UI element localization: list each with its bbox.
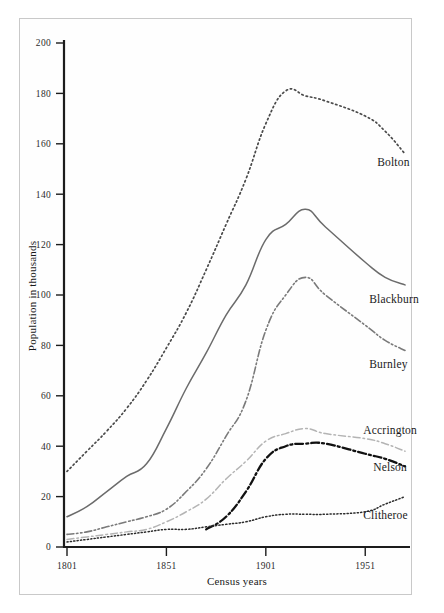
y-axis-tick-label: 200 [36, 38, 51, 48]
y-axis-tick-label: 20 [41, 492, 51, 502]
y-axis-tick-label: 60 [41, 391, 51, 401]
y-axis-tick-label: 160 [36, 139, 51, 149]
x-axis-ticks [67, 547, 365, 556]
x-axis-title: Census years [207, 575, 267, 587]
series-line-burnley[interactable] [67, 277, 405, 534]
y-axis-tick-label: 180 [36, 89, 51, 99]
x-axis: 1801185119011951 [57, 547, 410, 571]
series-label-clitheroe: Clitheroe [363, 509, 408, 521]
x-axis-tick-label: 1901 [256, 561, 276, 571]
series-line-blackburn[interactable] [67, 209, 405, 516]
series-lines [67, 89, 405, 542]
population-line-chart: 020406080100120140160180200 180118511901… [0, 0, 444, 613]
series-label-accrington: Accrington [363, 424, 417, 437]
figure-canvas: 020406080100120140160180200 180118511901… [0, 0, 444, 613]
y-axis-title: Population in thousands [26, 241, 38, 351]
y-axis-tick-label: 140 [36, 190, 51, 200]
series-line-clitheroe[interactable] [67, 497, 405, 542]
y-axis-tick-labels: 020406080100120140160180200 [36, 38, 51, 552]
series-label-burnley: Burnley [369, 358, 407, 371]
series-label-bolton: Bolton [377, 156, 410, 168]
x-axis-tick-labels: 1801185119011951 [57, 561, 375, 571]
y-axis-tick-label: 120 [36, 240, 51, 250]
x-axis-tick-label: 1951 [355, 561, 375, 571]
y-axis-tick-label: 0 [46, 542, 51, 552]
y-axis-ticks [56, 43, 64, 547]
y-axis-tick-label: 40 [41, 442, 51, 452]
series-label-blackburn: Blackburn [369, 293, 419, 305]
y-axis: 020406080100120140160180200 [36, 38, 64, 552]
series-label-nelson: Nelson [373, 461, 407, 473]
x-axis-tick-label: 1801 [57, 561, 77, 571]
x-axis-tick-label: 1851 [156, 561, 176, 571]
series-inline-labels: BoltonBlackburnBurnleyAccringtonNelsonCl… [363, 156, 419, 521]
y-axis-tick-label: 80 [41, 341, 51, 351]
y-axis-tick-label: 100 [36, 290, 51, 300]
series-line-bolton[interactable] [67, 89, 405, 472]
